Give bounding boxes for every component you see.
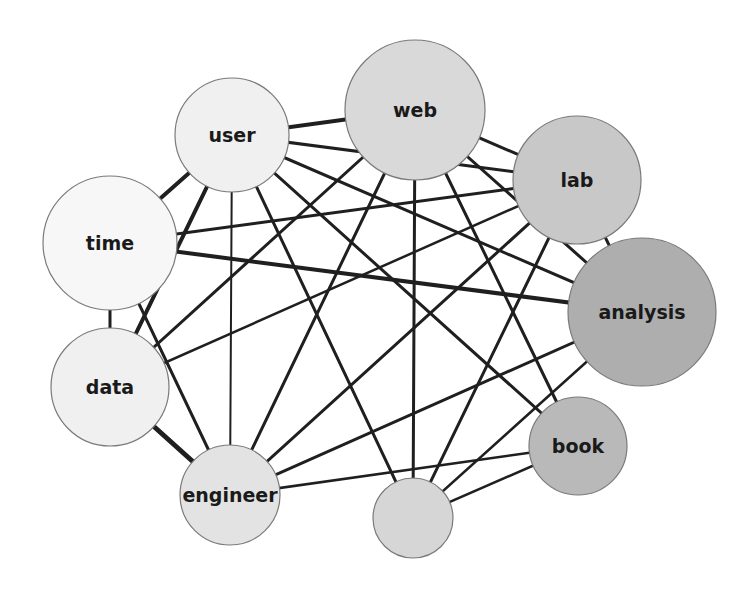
node-user: user — [175, 78, 289, 192]
node-label-web: web — [393, 99, 437, 121]
node-unlabeled — [373, 478, 453, 558]
node-web: web — [345, 40, 485, 180]
node-label-data: data — [86, 376, 134, 398]
node-circle-unlabeled — [373, 478, 453, 558]
node-label-analysis: analysis — [598, 301, 685, 323]
node-lab: lab — [513, 116, 641, 244]
node-time: time — [43, 176, 177, 310]
node-engineer: engineer — [180, 445, 280, 545]
node-book: book — [529, 397, 627, 495]
node-label-book: book — [552, 435, 605, 457]
node-label-user: user — [208, 124, 256, 146]
node-analysis: analysis — [568, 238, 716, 386]
node-data: data — [51, 328, 169, 446]
nodes-layer: web user lab time analysis data book en — [43, 40, 716, 558]
node-label-lab: lab — [561, 169, 594, 191]
node-label-time: time — [86, 232, 134, 254]
network-graph: web user lab time analysis data book en — [0, 0, 750, 589]
node-label-engineer: engineer — [182, 484, 278, 506]
